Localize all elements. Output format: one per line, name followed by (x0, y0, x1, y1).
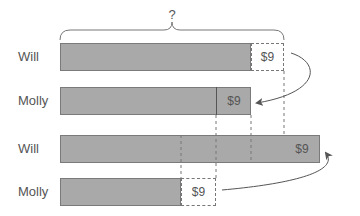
brace (60, 22, 284, 40)
arrow-bottom (222, 153, 328, 190)
diagram-overlay (0, 0, 360, 216)
